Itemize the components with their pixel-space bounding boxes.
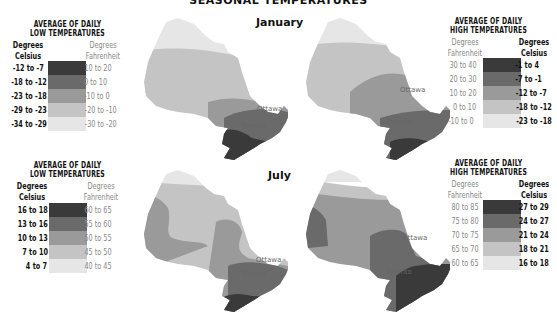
legend-fahrenheit-range: 55 to 60 [84, 217, 111, 231]
legend-january-low: AVERAGE OF DAILY LOW TEMPERATURES Degree… [0, 0, 135, 150]
legend-fahrenheit-range: 60 to 65 [84, 203, 111, 217]
legend-celsius-range: -12 to -7 [13, 61, 44, 75]
legend-fahrenheit-range: 0 to 10 [84, 75, 107, 89]
legend-fahrenheit-range: -10 to 0 [448, 114, 473, 128]
map-july-low: Ottawa Toronto [128, 166, 288, 316]
legend-celsius-range: -23 to -18 [11, 89, 47, 103]
legend-celsius-range: 27 to 29 [519, 200, 549, 214]
legend-fahrenheit-range: 40 to 45 [84, 259, 111, 273]
city-label-toronto: Toronto [239, 270, 266, 278]
legend-swatch-4 [49, 245, 87, 259]
celsius-header-line2: Celsius [15, 192, 49, 203]
legend-title-line1: AVERAGE OF DAILY [10, 161, 125, 170]
legend-celsius-range: 16 to 18 [18, 203, 48, 217]
city-label-ottawa: Ottawa [257, 105, 282, 113]
legend-celsius-range: 10 to 13 [18, 231, 48, 245]
legend-celsius-range: -18 to -12 [11, 75, 47, 89]
legend-swatch-5 [483, 256, 521, 270]
legend-fahrenheit-range: -30 to -20 [85, 117, 117, 131]
legend-title-line2: LOW TEMPERATURES [10, 29, 125, 38]
city-label-ottawa: Ottawa [402, 234, 427, 242]
legend-swatch-3 [483, 228, 521, 242]
legend-swatch-5 [48, 117, 86, 131]
map-july-high: Ottawa Toronto [290, 166, 450, 316]
legend-fahrenheit-range: 60 to 65 [451, 256, 478, 270]
legend-swatch-1 [483, 200, 521, 214]
celsius-header-line1: Degrees [11, 40, 45, 51]
legend-celsius-range: -12 to -7 [516, 86, 547, 100]
legend-title-line2: LOW TEMPERATURES [10, 170, 125, 179]
city-label-toronto: Toronto [239, 122, 266, 130]
legend-july-low: AVERAGE OF DAILY LOW TEMPERATURES Degree… [0, 160, 135, 311]
celsius-header-line1: Degrees [517, 37, 551, 48]
legend-swatch-4 [483, 242, 521, 256]
legend-celsius-range: 7 to 10 [22, 245, 48, 259]
legend-celsius-range: 21 to 24 [519, 228, 549, 242]
legend-fahrenheit-range: 30 to 40 [449, 58, 476, 72]
legend-fahrenheit-range: 50 to 55 [84, 231, 111, 245]
legend-celsius-range: -18 to -12 [516, 100, 552, 114]
fahrenheit-header-line1: Degrees [83, 40, 122, 51]
legend-fahrenheit-range: 10 to 20 [449, 86, 476, 100]
fahrenheit-header-line1: Degrees [445, 179, 484, 190]
fahrenheit-header-line1: Degrees [81, 181, 120, 192]
legend-fahrenheit-range: -10 to 0 [84, 89, 109, 103]
legend-celsius-range: 13 to 16 [18, 217, 48, 231]
legend-celsius-range: -29 to -23 [11, 103, 47, 117]
legend-title-line1: AVERAGE OF DAILY [10, 20, 125, 29]
city-label-toronto: Toronto [385, 268, 412, 276]
fahrenheit-header-line2: Fahrenheit [81, 192, 120, 203]
legend-fahrenheit-range: 10 to 20 [84, 61, 111, 75]
city-label-ottawa: Ottawa [400, 86, 425, 94]
legend-swatch-4 [48, 103, 86, 117]
celsius-header-line1: Degrees [517, 179, 551, 190]
map-january-low: Ottawa Toronto [128, 14, 288, 164]
map-january-high: Ottawa Toronto [290, 14, 450, 164]
legend-swatch-2 [49, 217, 87, 231]
legend-swatch-1 [48, 61, 86, 75]
legend-celsius-range: 16 to 18 [519, 256, 549, 270]
celsius-header-line1: Degrees [15, 181, 49, 192]
fahrenheit-header-line1: Degrees [445, 37, 484, 48]
legend-celsius-range: -1 to 4 [515, 58, 539, 72]
legend-swatch-2 [483, 214, 521, 228]
legend-swatch-3 [49, 231, 87, 245]
legend-fahrenheit-range: 75 to 80 [451, 214, 478, 228]
legend-swatch-1 [49, 203, 87, 217]
legend-fahrenheit-range: 65 to 70 [451, 242, 478, 256]
legend-celsius-range: -7 to -1 [515, 72, 542, 86]
legend-fahrenheit-range: 0 to 10 [453, 100, 476, 114]
city-label-toronto: Toronto [385, 118, 412, 126]
legend-celsius-range: 4 to 7 [26, 259, 47, 273]
legend-celsius-range: 18 to 21 [519, 242, 549, 256]
legend-fahrenheit-range: 45 to 50 [84, 245, 111, 259]
legend-swatch-3 [48, 89, 86, 103]
legend-celsius-range: -23 to -18 [516, 114, 552, 128]
legend-celsius-range: -34 to -29 [11, 117, 47, 131]
legend-fahrenheit-range: 70 to 75 [451, 228, 478, 242]
city-label-ottawa: Ottawa [256, 256, 281, 264]
legend-swatch-5 [49, 259, 87, 273]
legend-celsius-range: 24 to 27 [519, 214, 549, 228]
legend-fahrenheit-range: 80 to 85 [451, 200, 478, 214]
legend-swatch-2 [48, 75, 86, 89]
legend-fahrenheit-range: -20 to -10 [85, 103, 117, 117]
legend-fahrenheit-range: 20 to 30 [449, 72, 476, 86]
